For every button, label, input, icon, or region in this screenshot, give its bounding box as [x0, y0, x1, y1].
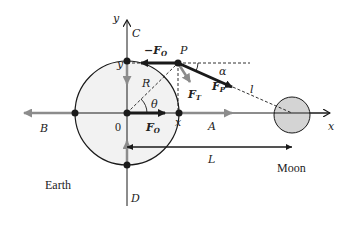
label-x-mark: x [175, 116, 182, 129]
earth-moon-tidal-force-diagram: y x C P A B D 0 y x R θ α l L −FO FO FT … [0, 0, 347, 226]
label-theta: θ [151, 98, 158, 111]
label-neg-fo: −FO [144, 44, 168, 58]
y-axis-label: y [112, 12, 120, 25]
point-p-dot [175, 60, 182, 67]
label-radius: R [141, 77, 150, 90]
label-ft: FT [187, 88, 202, 102]
label-b: B [39, 122, 48, 135]
point-b-dot [72, 110, 79, 117]
alpha-arc [196, 63, 198, 71]
label-moon: Moon [277, 161, 306, 175]
point-c-dot [124, 58, 131, 65]
label-distance-l: l [250, 83, 254, 96]
label-y-mark: y [116, 58, 124, 71]
label-a: A [207, 120, 216, 133]
label-c: C [132, 27, 141, 40]
label-earth: Earth [45, 178, 71, 192]
label-d: D [130, 192, 140, 205]
x-axis-label: x [328, 120, 335, 133]
label-p: P [179, 44, 188, 57]
label-origin: 0 [115, 120, 121, 134]
moon-circle [274, 97, 310, 133]
point-d-dot [124, 162, 131, 169]
origin-dot [124, 110, 131, 117]
label-alpha: α [219, 65, 227, 78]
label-distance-L: L [207, 153, 215, 166]
